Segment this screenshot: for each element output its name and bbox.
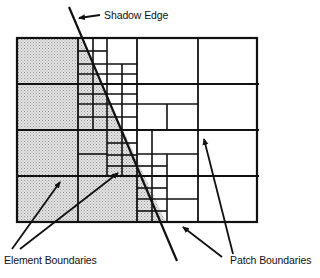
patch-arrow-bottom	[183, 227, 222, 257]
patch-boundaries-label: Patch Boundaries	[230, 254, 311, 266]
patch-arrow-top	[204, 139, 233, 254]
shadow-edge-arrow	[79, 15, 100, 18]
shadow-edge-label: Shadow Edge	[104, 9, 168, 21]
element-boundaries-label: Element Boundaries	[4, 254, 97, 266]
diagram-canvas	[0, 0, 320, 278]
